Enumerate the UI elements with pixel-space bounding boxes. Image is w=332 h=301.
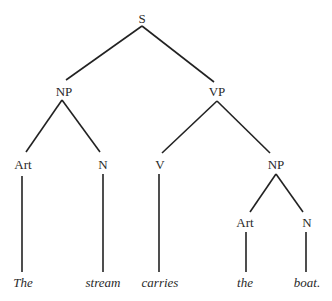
word-w4: the [237,275,253,291]
edge-vp-v [162,101,217,153]
word-w5: boat. [294,275,320,291]
edge-np1-art1 [26,100,62,152]
node-n1: N [98,157,107,173]
node-np2: NP [268,157,285,173]
node-vp: VP [209,84,226,100]
edge-s-vp [142,26,214,82]
edge-np2-n2 [276,174,303,212]
word-w3: carries [142,275,179,291]
node-art2: Art [236,215,253,231]
edge-vp-np2 [217,101,270,153]
word-w2: stream [86,275,121,291]
node-n2: N [302,215,311,231]
node-np1: NP [56,84,73,100]
edge-s-np1 [66,26,142,80]
tree-edges [0,0,332,301]
node-art1: Art [14,157,31,173]
edge-np1-n1 [62,100,100,152]
word-w1: The [13,275,33,291]
node-s: S [138,11,145,27]
syntax-tree-diagram: SNPVPArtNVNPArtNThestreamcarriestheboat. [0,0,332,301]
node-v: V [155,157,164,173]
edge-np2-art2 [250,174,276,212]
